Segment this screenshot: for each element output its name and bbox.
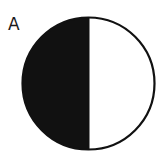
circle-dark-half xyxy=(23,18,89,150)
half-filled-circle-figure xyxy=(0,0,165,162)
